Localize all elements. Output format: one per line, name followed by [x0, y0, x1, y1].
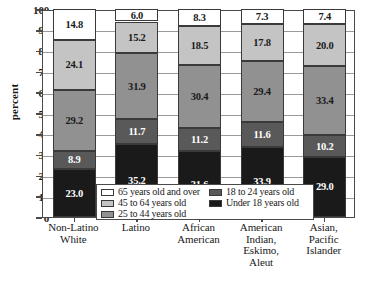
bar-value-label: 7.3: [256, 11, 269, 22]
legend-column-left: 65 years old and over45 to 64 years old2…: [101, 187, 200, 220]
bar-value-label: 15.2: [128, 32, 146, 43]
legend-swatch-icon: [209, 189, 222, 197]
bar-value-label: 8.3: [193, 12, 206, 23]
legend-column-right: 18 to 24 years oldUnder 18 years old: [209, 187, 299, 209]
bar-value-label: 29.4: [253, 86, 271, 97]
bar-segment[interactable]: 20.0: [303, 24, 346, 66]
bar-segment[interactable]: 8.3: [178, 9, 221, 26]
legend-swatch-icon: [101, 211, 114, 219]
x-axis-label-line: Aleut: [222, 257, 300, 269]
bar-segment[interactable]: 23.0: [53, 169, 96, 217]
bar-segment[interactable]: 31.9: [115, 53, 158, 119]
bar-segment[interactable]: 11.2: [178, 128, 221, 151]
legend-item[interactable]: 65 years old and over: [101, 187, 200, 198]
legend-label: 65 years old and over: [118, 187, 200, 197]
bar-segment[interactable]: 15.2: [115, 22, 158, 54]
bar-segment[interactable]: 29.2: [53, 90, 96, 151]
bar-value-label: 24.1: [66, 59, 84, 70]
legend-item[interactable]: 25 to 44 years old: [101, 209, 200, 220]
bar-value-label: 29.2: [66, 115, 84, 126]
bar-segment[interactable]: 7.3: [241, 9, 284, 24]
legend-label: 25 to 44 years old: [118, 209, 186, 219]
bar-segment[interactable]: 10.2: [303, 135, 346, 156]
bar-value-label: 31.9: [128, 81, 146, 92]
x-axis-label-line: White: [34, 234, 112, 246]
bar-value-label: 6.0: [131, 10, 144, 21]
bar-group[interactable]: 23.08.929.224.114.8: [53, 9, 96, 217]
bar-value-label: 7.4: [318, 11, 331, 22]
bar-segment[interactable]: 17.8: [241, 24, 284, 61]
legend-label: Under 18 years old: [226, 198, 299, 208]
x-axis-label-line: Islander: [285, 245, 363, 257]
bar-value-label: 10.2: [316, 141, 334, 152]
legend: 65 years old and over45 to 64 years old2…: [96, 184, 314, 220]
legend-label: 18 to 24 years old: [226, 187, 294, 197]
bar-value-label: 23.0: [66, 188, 84, 199]
bar-segment[interactable]: 11.6: [241, 122, 284, 146]
bar-segment[interactable]: 33.4: [303, 66, 346, 135]
x-axis-label: Asian,PacificIslander: [285, 222, 363, 257]
legend-swatch-icon: [209, 200, 222, 208]
bar-segment[interactable]: 11.7: [115, 119, 158, 143]
x-axis-label-line: Asian,: [285, 222, 363, 234]
bar-value-label: 11.6: [254, 129, 271, 140]
bar-segment[interactable]: 30.4: [178, 65, 221, 128]
bar-value-label: 33.4: [316, 95, 334, 106]
bar-segment[interactable]: 29.4: [241, 61, 284, 122]
bar-segment[interactable]: 24.1: [53, 40, 96, 90]
legend-label: 45 to 64 years old: [118, 198, 186, 208]
legend-item[interactable]: 45 to 64 years old: [101, 198, 200, 209]
legend-item[interactable]: Under 18 years old: [209, 198, 299, 209]
bar-segment[interactable]: 7.4: [303, 9, 346, 24]
bar-segment[interactable]: 8.9: [53, 151, 96, 170]
bar-value-label: 20.0: [316, 40, 334, 51]
bar-segment[interactable]: 6.0: [115, 9, 158, 21]
legend-swatch-icon: [101, 200, 114, 208]
legend-swatch-icon: [101, 189, 114, 197]
bar-segment[interactable]: 14.8: [53, 9, 96, 40]
bar-value-label: 29.0: [316, 181, 334, 192]
bar-value-label: 11.2: [191, 134, 208, 145]
bar-segment[interactable]: 18.5: [178, 26, 221, 64]
bar-value-label: 8.9: [68, 154, 81, 165]
bar-value-label: 17.8: [253, 37, 271, 48]
stacked-bar-chart: percent 0102030405060708090100 23.08.929…: [0, 0, 367, 282]
bar-value-label: 18.5: [191, 40, 209, 51]
bar-value-label: 14.8: [66, 19, 84, 30]
bar-value-label: 11.7: [128, 126, 145, 137]
bar-value-label: 30.4: [191, 91, 209, 102]
legend-item[interactable]: 18 to 24 years old: [209, 187, 299, 198]
